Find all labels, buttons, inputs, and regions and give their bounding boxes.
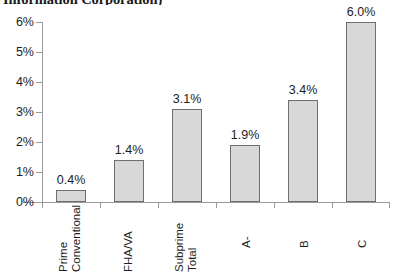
y-tick-label-6: 6% <box>0 16 34 28</box>
x-category-label-b: B <box>298 240 311 248</box>
y-tick-label-3: 3% <box>0 106 34 118</box>
bar-c[interactable] <box>346 22 376 202</box>
y-tick-3 <box>36 112 43 113</box>
bar-chart: Information Corporation) 0% 1% 2% 3% 4% … <box>0 0 397 278</box>
x-tick-5 <box>332 202 333 208</box>
y-tick-label-5-wrap: 5% <box>0 46 34 58</box>
y-tick-label-0-wrap: 0% <box>0 196 34 208</box>
x-tick-2 <box>158 202 159 208</box>
y-tick-label-1-wrap: 1% <box>0 166 34 178</box>
x-tick-3 <box>216 202 217 208</box>
bar-a-minus[interactable] <box>230 145 260 202</box>
y-tick-label-1: 1% <box>0 166 34 178</box>
y-tick-1 <box>36 172 43 173</box>
bar-value-fha-va: 1.4% <box>99 144 159 157</box>
y-tick-label-6-wrap: 6% <box>0 16 34 28</box>
y-tick-label-2: 2% <box>0 136 34 148</box>
bar-value-subprime-total: 3.1% <box>157 93 217 106</box>
x-category-label-a-minus: A- <box>240 237 253 249</box>
bar-prime-conventional[interactable] <box>56 190 86 202</box>
x-category-label-subprime-total: Subprime Total <box>173 223 198 272</box>
bar-subprime-total[interactable] <box>172 109 202 202</box>
y-tick-2 <box>36 142 43 143</box>
y-tick-label-4-wrap: 4% <box>0 76 34 88</box>
x-tick-1 <box>100 202 101 208</box>
y-tick-5 <box>36 52 43 53</box>
x-category-label-c: C <box>356 240 369 248</box>
y-tick-label-2-wrap: 2% <box>0 136 34 148</box>
x-tick-4 <box>274 202 275 208</box>
bar-value-prime-conventional: 0.4% <box>41 174 101 187</box>
y-tick-label-5: 5% <box>0 46 34 58</box>
bar-value-a-minus: 1.9% <box>215 129 275 142</box>
bar-fha-va[interactable] <box>114 160 144 202</box>
x-category-label-fha-va: FHA/VA <box>122 231 135 272</box>
bar-b[interactable] <box>288 100 318 202</box>
y-tick-label-3-wrap: 3% <box>0 106 34 118</box>
bar-value-b: 3.4% <box>273 84 333 97</box>
x-tick-6 <box>389 202 390 208</box>
y-tick-label-4: 4% <box>0 76 34 88</box>
y-tick-label-0: 0% <box>0 196 34 208</box>
y-tick-6 <box>36 22 43 23</box>
y-tick-4 <box>36 82 43 83</box>
x-tick-0 <box>42 202 43 208</box>
x-category-label-prime-conventional: Prime Conventional <box>57 205 82 272</box>
bar-value-c: 6.0% <box>331 6 391 19</box>
plot-area: 0% 1% 2% 3% 4% 5% 6% <box>0 0 397 278</box>
x-axis-line <box>23 202 390 203</box>
